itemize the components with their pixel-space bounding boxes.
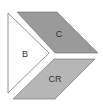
label-c: C xyxy=(56,29,63,39)
block-diagram: B C CR xyxy=(0,0,103,106)
label-b: B xyxy=(22,49,28,59)
label-cr: CR xyxy=(49,74,62,84)
